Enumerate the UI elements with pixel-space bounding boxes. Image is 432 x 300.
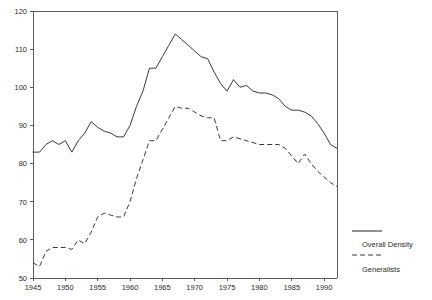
plot-axes bbox=[33, 11, 337, 278]
legend-label-overall-density: Overall Density bbox=[362, 240, 413, 249]
x-tick-label: 1960 bbox=[122, 283, 139, 292]
axis-frame bbox=[33, 11, 337, 278]
x-axis-ticks: 1945195019551960196519701975198019851990 bbox=[25, 278, 333, 292]
series-line-generalists bbox=[33, 106, 337, 266]
y-tick-label: 100 bbox=[14, 83, 27, 92]
x-tick-label: 1950 bbox=[57, 283, 74, 292]
chart-figure: 5060708090100110120 19451950195519601965… bbox=[0, 0, 432, 300]
y-axis-ticks: 5060708090100110120 bbox=[14, 7, 33, 283]
chart-legend: Overall Density Generalists bbox=[352, 231, 413, 274]
x-tick-label: 1985 bbox=[283, 283, 300, 292]
y-tick-label: 90 bbox=[19, 121, 27, 130]
y-tick-label: 110 bbox=[15, 45, 27, 54]
y-tick-label: 50 bbox=[19, 274, 27, 283]
series-line-overall-density bbox=[33, 34, 337, 152]
legend-label-generalists: Generalists bbox=[362, 265, 400, 274]
data-series-group bbox=[33, 34, 337, 267]
x-tick-label: 1990 bbox=[316, 283, 333, 292]
x-tick-label: 1965 bbox=[154, 283, 171, 292]
x-tick-label: 1955 bbox=[89, 283, 106, 292]
y-tick-label: 120 bbox=[14, 7, 27, 16]
x-tick-label: 1970 bbox=[186, 283, 203, 292]
y-tick-label: 60 bbox=[19, 236, 27, 245]
y-tick-label: 70 bbox=[19, 198, 27, 207]
y-tick-label: 80 bbox=[19, 159, 27, 168]
x-tick-label: 1980 bbox=[251, 283, 268, 292]
line-chart: 5060708090100110120 19451950195519601965… bbox=[0, 0, 432, 300]
x-tick-label: 1945 bbox=[25, 283, 42, 292]
x-tick-label: 1975 bbox=[219, 283, 236, 292]
